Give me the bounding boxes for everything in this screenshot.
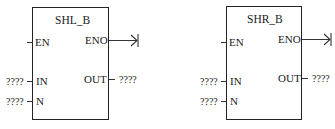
shl-b-eno-arrow-icon bbox=[131, 34, 138, 47]
shr-b-eno-arrow-icon bbox=[324, 33, 331, 46]
eno-arrows bbox=[0, 0, 335, 129]
